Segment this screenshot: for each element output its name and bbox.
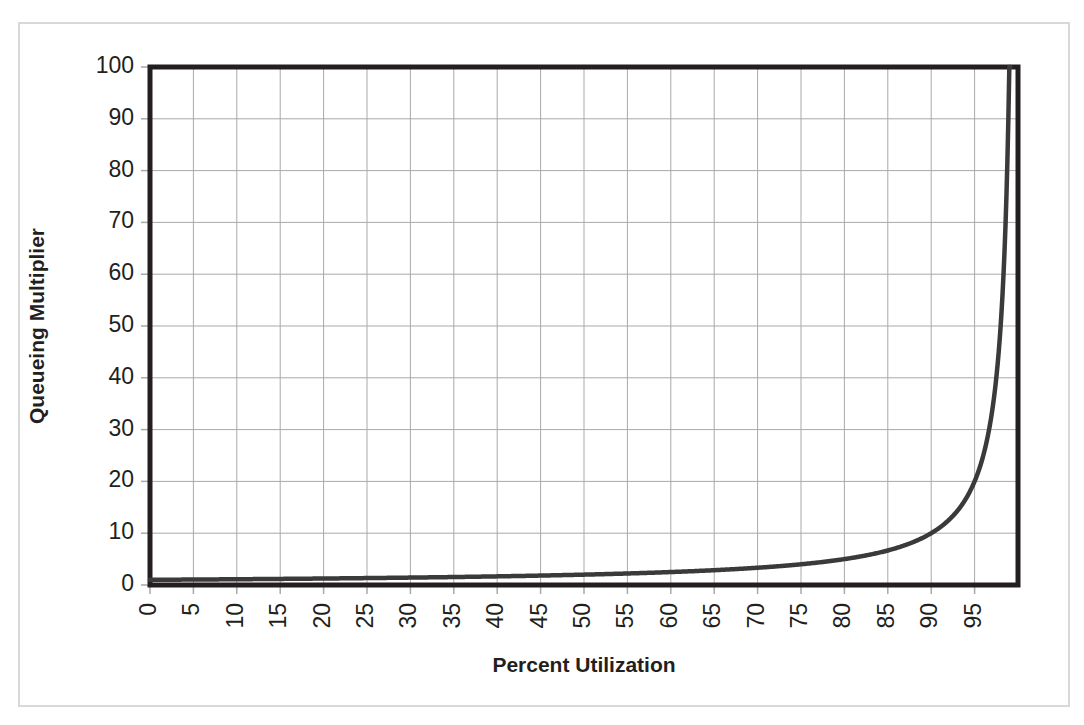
x-tick-label: 60 bbox=[656, 603, 682, 629]
y-tick-label: 70 bbox=[108, 207, 134, 233]
y-axis-title: Queueing Multiplier bbox=[25, 228, 48, 424]
x-tick-label: 35 bbox=[439, 603, 465, 629]
y-tick-label: 30 bbox=[108, 415, 134, 441]
x-tick-label: 55 bbox=[612, 603, 638, 629]
x-tick-label: 10 bbox=[222, 603, 248, 629]
y-tick-label: 60 bbox=[108, 259, 134, 285]
y-axis-tick-labels: 0102030405060708090100 bbox=[96, 52, 134, 596]
x-tick-label: 15 bbox=[265, 603, 291, 629]
x-tick-label: 70 bbox=[743, 603, 769, 629]
y-tick-label: 0 bbox=[121, 570, 134, 596]
x-tick-label: 40 bbox=[482, 603, 508, 629]
x-tick-label: 50 bbox=[569, 603, 595, 629]
x-axis-title: Percent Utilization bbox=[492, 653, 675, 676]
x-tick-label: 25 bbox=[352, 603, 378, 629]
y-tick-label: 90 bbox=[108, 104, 134, 130]
x-tick-label: 45 bbox=[526, 603, 552, 629]
x-tick-label: 5 bbox=[178, 603, 204, 616]
chart-figure: 05101520253035404550556065707580859095 0… bbox=[0, 0, 1084, 725]
y-tick-label: 50 bbox=[108, 311, 134, 337]
x-tick-label: 95 bbox=[960, 603, 986, 629]
x-tick-label: 0 bbox=[135, 603, 161, 616]
x-tick-label: 85 bbox=[873, 603, 899, 629]
x-tick-label: 20 bbox=[309, 603, 335, 629]
x-tick-label: 90 bbox=[916, 603, 942, 629]
y-tick-label: 80 bbox=[108, 156, 134, 182]
x-axis-tick-labels: 05101520253035404550556065707580859095 bbox=[135, 603, 986, 629]
x-tick-label: 65 bbox=[699, 603, 725, 629]
x-tick-label: 80 bbox=[829, 603, 855, 629]
queueing-multiplier-chart: 05101520253035404550556065707580859095 0… bbox=[0, 0, 1084, 725]
y-tick-label: 100 bbox=[96, 52, 134, 78]
x-tick-label: 30 bbox=[395, 603, 421, 629]
x-tick-label: 75 bbox=[786, 603, 812, 629]
y-tick-label: 40 bbox=[108, 363, 134, 389]
y-tick-label: 20 bbox=[108, 466, 134, 492]
queueing-multiplier-curve bbox=[150, 67, 1010, 580]
y-tick-label: 10 bbox=[108, 518, 134, 544]
